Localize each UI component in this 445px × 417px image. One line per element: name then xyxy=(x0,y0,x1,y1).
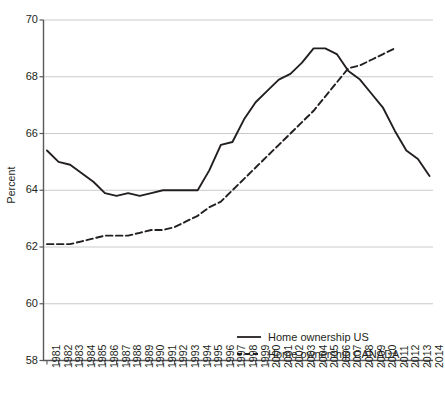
y-axis-tick-labels: 58606264666870 xyxy=(14,0,38,380)
y-tick-label: 60 xyxy=(16,298,38,309)
legend-label-us: Home ownership US xyxy=(268,331,369,343)
y-tick-label: 68 xyxy=(16,71,38,82)
y-tick-label: 70 xyxy=(16,14,38,25)
y-tick-label: 58 xyxy=(16,355,38,366)
y-tick-label: 66 xyxy=(16,128,38,139)
data-series-group xyxy=(47,48,430,244)
chart-legend: Home ownership US Home ownership CANADA xyxy=(236,328,436,362)
legend-line-solid-icon xyxy=(236,332,262,342)
legend-item-us: Home ownership US xyxy=(236,328,436,345)
y-tick-label: 64 xyxy=(16,184,38,195)
gridlines-group xyxy=(44,20,434,304)
legend-label-canada: Home ownership CANADA xyxy=(268,348,399,360)
series-line-us xyxy=(47,48,430,196)
legend-item-canada: Home ownership CANADA xyxy=(236,345,436,362)
y-tick-label: 62 xyxy=(16,241,38,252)
legend-line-dashed-icon xyxy=(236,349,262,359)
